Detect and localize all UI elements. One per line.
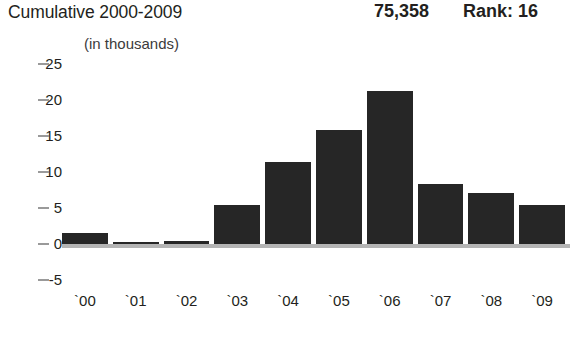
x-axis-tick-label: `09: [519, 292, 565, 309]
bar: [367, 91, 413, 244]
bar: [316, 130, 362, 244]
x-axis-tick-label: `04: [265, 292, 311, 309]
bar-slot: [418, 60, 464, 244]
x-axis-tick-label: `03: [214, 292, 260, 309]
bar-slot: [468, 60, 514, 244]
y-axis-tick-mark: [38, 99, 49, 101]
bar-slot: [265, 60, 311, 244]
bar-slot: [214, 60, 260, 244]
x-axis-tick-label: `07: [418, 292, 464, 309]
bar: [519, 205, 565, 244]
bar-slot: [519, 60, 565, 244]
bar-slot: [62, 60, 108, 244]
y-axis-tick-mark: [38, 135, 49, 137]
bar: [62, 233, 108, 244]
bar: [265, 162, 311, 244]
x-axis: `00`01`02`03`04`05`06`07`08`09: [62, 292, 570, 314]
bar: [113, 242, 159, 244]
y-axis-tick: 5: [0, 201, 62, 215]
bar: [418, 184, 464, 244]
y-axis-tick-mark: [38, 207, 49, 209]
bar-slot: [164, 60, 210, 244]
bar: [164, 241, 210, 244]
y-axis-tick-mark: [38, 171, 49, 173]
x-axis-tick-label: `05: [316, 292, 362, 309]
bar: [468, 193, 514, 244]
x-axis-tick-label: `01: [113, 292, 159, 309]
x-axis-tick-label: `00: [62, 292, 108, 309]
x-axis-tick-label: `08: [468, 292, 514, 309]
bar: [214, 205, 260, 244]
bar-series: [62, 60, 570, 244]
y-axis-tick-mark: [38, 279, 49, 281]
y-axis-tick: -5: [0, 273, 62, 287]
bar-slot: [367, 60, 413, 244]
y-axis-tick: 20: [0, 93, 62, 107]
x-axis-baseline: [62, 244, 570, 248]
bar-slot: [113, 60, 159, 244]
x-axis-tick-label: `06: [367, 292, 413, 309]
bar-chart: 2520151050-5 `00`01`02`03`04`05`06`07`08…: [0, 0, 577, 339]
y-axis-tick: 25: [0, 57, 62, 71]
y-axis-tick-mark: [38, 243, 49, 245]
y-axis-tick-mark: [38, 63, 49, 65]
y-axis-tick: 0: [0, 237, 62, 251]
y-axis-tick: 10: [0, 165, 62, 179]
y-axis-tick: 15: [0, 129, 62, 143]
bar-slot: [316, 60, 362, 244]
x-axis-tick-label: `02: [164, 292, 210, 309]
